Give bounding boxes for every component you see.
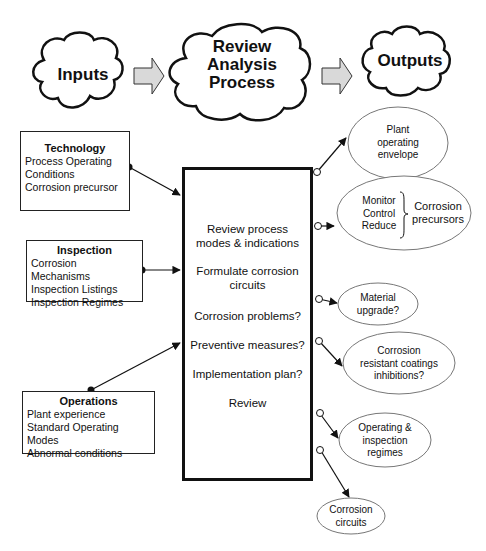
input-line: Inspection Listings <box>31 283 138 296</box>
process-cloud-line: Analysis <box>192 56 292 74</box>
input-box-technology: Technology Process Operating Conditions … <box>20 131 130 211</box>
output-monitor-control-reduce: Monitor Control Reduce <box>356 195 402 233</box>
output-plant-envelope: Plant operating envelope <box>358 124 438 162</box>
process-cloud-line: Review <box>192 38 292 56</box>
input-line: Inspection Regimes <box>31 296 138 309</box>
input-line: Process Operating <box>25 155 125 168</box>
output-corrosion-precursors: Corrosion precursors <box>408 200 468 226</box>
process-step-review: Review <box>185 396 310 410</box>
flow-arrow-icon <box>322 58 352 94</box>
connector-ring-icon <box>314 169 321 176</box>
input-title: Inspection <box>31 244 138 257</box>
output-line: precursors <box>408 213 468 226</box>
input-line: Abnormal conditions <box>27 447 150 460</box>
input-line: Conditions <box>25 168 125 181</box>
connector-ring-icon <box>317 447 324 454</box>
step-line: Corrosion problems? <box>185 309 310 323</box>
connector-ring-icon <box>316 338 323 345</box>
step-line: Implementation plan? <box>185 367 310 381</box>
output-line: operating <box>358 137 438 150</box>
process-cloud-line: Process <box>192 74 292 92</box>
step-line: Preventive measures? <box>185 338 310 352</box>
process-box <box>182 167 313 481</box>
output-line: regimes <box>345 447 425 460</box>
step-line: Review <box>185 396 310 410</box>
output-line: Control <box>356 208 402 221</box>
output-line: Corrosion <box>408 200 468 213</box>
connector-ring-icon <box>316 296 323 303</box>
process-cloud-label: Review Analysis Process <box>192 38 292 92</box>
connector-operations <box>91 343 180 390</box>
output-corrosion-circuits: Corrosion circuits <box>321 504 381 529</box>
process-step-preventive-measures: Preventive measures? <box>185 338 310 352</box>
process-step-corrosion-problems: Corrosion problems? <box>185 309 310 323</box>
output-line: Plant <box>358 124 438 137</box>
output-line: resistant coatings <box>349 358 449 371</box>
input-line: Corrosion Mechanisms <box>31 257 138 283</box>
output-line: Operating & <box>345 422 425 435</box>
input-title: Technology <box>25 142 125 155</box>
output-line: Monitor <box>356 195 402 208</box>
output-line: inspection <box>345 435 425 448</box>
step-line: modes & indications <box>185 236 310 250</box>
output-line: envelope <box>358 149 438 162</box>
input-title: Operations <box>27 395 150 408</box>
output-operating-inspection-regimes: Operating & inspection regimes <box>345 422 425 460</box>
step-line: Formulate corrosion <box>185 264 310 278</box>
flow-arrow-icon <box>134 58 164 94</box>
process-step-formulate-circuits: Formulate corrosion circuits <box>185 264 310 292</box>
output-line: Material <box>343 292 413 305</box>
output-coatings-inhibitions: Corrosion resistant coatings inhibitions… <box>349 345 449 383</box>
connector-ring-icon <box>317 410 324 417</box>
output-line: Corrosion <box>321 504 381 517</box>
connector-technology <box>129 167 180 195</box>
inputs-cloud-label: Inputs <box>48 66 118 84</box>
outputs-cloud-label: Outputs <box>370 52 450 70</box>
output-material-upgrade: Material upgrade? <box>343 292 413 317</box>
step-line: Review process <box>185 222 310 236</box>
process-step-review-modes: Review process modes & indications <box>185 222 310 250</box>
input-line: Standard Operating Modes <box>27 421 150 447</box>
input-line: Corrosion precursor <box>25 181 125 194</box>
input-box-inspection: Inspection Corrosion Mechanisms Inspecti… <box>26 240 143 302</box>
output-line: circuits <box>321 517 381 530</box>
output-line: Reduce <box>356 220 402 233</box>
process-step-implementation-plan: Implementation plan? <box>185 367 310 381</box>
connector-ring-icon <box>315 223 322 230</box>
input-box-operations: Operations Plant experience Standard Ope… <box>22 391 155 454</box>
step-line: circuits <box>185 278 310 292</box>
output-line: Corrosion <box>349 345 449 358</box>
output-line: upgrade? <box>343 305 413 318</box>
input-line: Plant experience <box>27 408 150 421</box>
output-line: inhibitions? <box>349 370 449 383</box>
